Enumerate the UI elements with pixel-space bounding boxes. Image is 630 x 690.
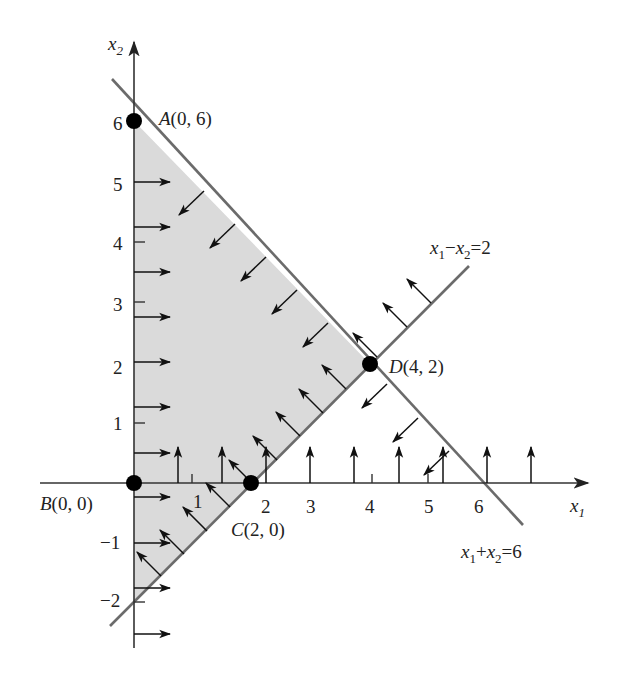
svg-text:5: 5 <box>113 174 123 195</box>
point-D <box>362 356 378 372</box>
svg-text:−2: −2 <box>100 590 120 611</box>
point-B-label: B(0, 0) <box>40 493 93 515</box>
svg-text:6: 6 <box>474 496 484 517</box>
svg-text:6: 6 <box>113 113 123 134</box>
svg-text:4: 4 <box>113 233 123 254</box>
x-axis-label: x1 <box>569 495 585 520</box>
svg-text:3: 3 <box>306 496 316 517</box>
lp-diagram: x1 x2 1 2 3 4 5 6 6 5 4 3 2 1 −1 −2 <box>0 0 630 690</box>
svg-text:2: 2 <box>113 357 123 378</box>
point-D-label: D(4, 2) <box>388 356 444 378</box>
svg-text:1: 1 <box>193 491 203 512</box>
svg-text:3: 3 <box>113 294 123 315</box>
svg-text:−1: −1 <box>100 532 120 553</box>
constraint-label-sum: x1+x2=6 <box>460 541 522 566</box>
point-A <box>126 113 142 129</box>
svg-text:1: 1 <box>113 413 123 434</box>
point-A-label: A(0, 6) <box>157 108 212 130</box>
y-tick-labels: 6 5 4 3 2 1 −1 −2 <box>100 113 123 611</box>
constraint-label-diff: x1−x2=2 <box>429 237 491 262</box>
point-B <box>126 475 142 491</box>
point-C-label: C(2, 0) <box>231 519 285 541</box>
svg-text:5: 5 <box>424 496 434 517</box>
point-C <box>243 475 259 491</box>
y-axis-label: x2 <box>107 33 123 58</box>
svg-text:4: 4 <box>365 496 375 517</box>
svg-text:2: 2 <box>261 496 271 517</box>
